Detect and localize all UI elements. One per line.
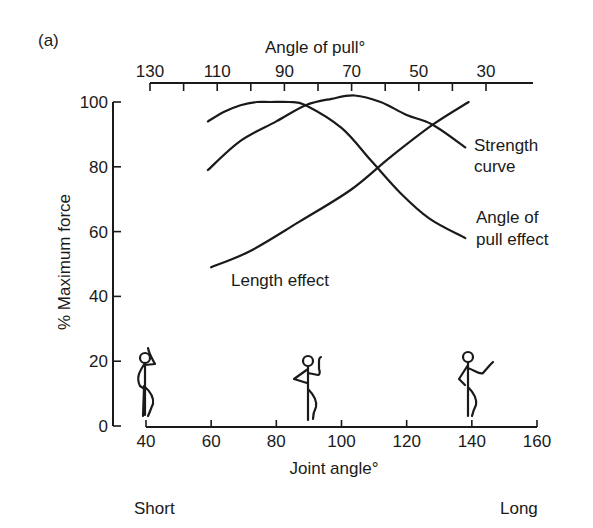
angle-of-pull-label-1: Angle of	[476, 208, 539, 227]
y-tick-label: 60	[89, 223, 108, 242]
angle-of-pull-label-2: pull effect	[476, 230, 549, 249]
strength-curve-line	[208, 95, 465, 170]
y-tick-label: 20	[89, 352, 108, 371]
curves	[208, 95, 469, 267]
x-axis-title: Joint angle°	[289, 459, 378, 478]
x-axis: 406080100120140160 Joint angle° Short Lo…	[134, 420, 551, 518]
top-axis-title: Angle of pull°	[265, 38, 365, 57]
x-tick-label: 80	[267, 432, 286, 451]
stick-figure-short	[138, 348, 155, 416]
x-tick-label: 160	[523, 432, 551, 451]
long-label: Long	[500, 499, 538, 518]
strength-curve-label-2: curve	[474, 157, 516, 176]
y-tick-label: 0	[99, 417, 108, 436]
x-tick-label: 60	[202, 432, 221, 451]
panel-label: (a)	[38, 31, 59, 50]
top-tick-label: 50	[409, 62, 428, 81]
short-label: Short	[134, 499, 175, 518]
top-axis: 13011090705030	[136, 62, 533, 91]
y-tick-label: 100	[80, 93, 108, 112]
top-tick-label: 90	[275, 62, 294, 81]
series-labels: Strength curve Angle of pull effect Leng…	[231, 136, 549, 290]
stick-figure-mid	[294, 356, 321, 420]
top-tick-label: 30	[477, 62, 496, 81]
top-tick-label: 110	[204, 62, 231, 81]
stick-figure-long	[459, 352, 493, 416]
x-tick-label: 100	[327, 432, 355, 451]
top-tick-label: 130	[136, 62, 164, 81]
x-tick-label: 40	[137, 432, 156, 451]
length-effect-label: Length effect	[231, 271, 329, 290]
x-tick-label: 140	[458, 432, 486, 451]
y-tick-label: 80	[89, 158, 108, 177]
y-tick-label: 40	[89, 287, 108, 306]
strength-curve-label-1: Strength	[474, 136, 538, 155]
y-axis: 020406080100 % Maximum force	[55, 93, 121, 436]
x-tick-label: 120	[392, 432, 420, 451]
figure-head	[140, 353, 150, 363]
figure-head	[303, 356, 313, 366]
chart: (a) Angle of pull° 13011090705030 020406…	[0, 0, 593, 528]
top-tick-label: 70	[342, 62, 361, 81]
figure-head	[463, 352, 473, 362]
y-axis-title: % Maximum force	[55, 194, 74, 330]
